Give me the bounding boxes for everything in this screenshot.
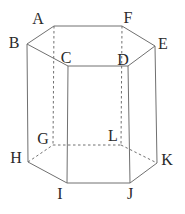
- vertex-label-D: D: [117, 51, 129, 68]
- edge-DJ: [128, 66, 130, 183]
- edge-FL-hidden: [121, 26, 122, 145]
- edge-JK: [130, 163, 157, 183]
- vertex-label-G: G: [37, 130, 49, 147]
- edge-ED: [128, 46, 155, 66]
- vertex-label-F: F: [124, 9, 133, 26]
- edge-FE: [122, 26, 155, 46]
- hexagonal-prism-diagram: ABCDEFGHIJKL: [0, 0, 185, 214]
- vertex-label-J: J: [127, 185, 133, 202]
- edge-EK: [155, 46, 157, 163]
- vertex-label-H: H: [10, 149, 22, 166]
- edge-HI: [28, 162, 67, 183]
- edge-LK-hidden: [121, 145, 157, 163]
- vertex-label-B: B: [9, 34, 20, 51]
- vertex-label-L: L: [108, 127, 118, 144]
- vertex-label-I: I: [57, 185, 62, 202]
- edge-HG-hidden: [28, 145, 53, 162]
- vertex-label-C: C: [61, 49, 72, 66]
- vertex-label-K: K: [161, 151, 173, 168]
- edge-BA: [27, 26, 54, 44]
- edge-CI: [67, 66, 68, 183]
- prism-wireframe-svg: ABCDEFGHIJKL: [0, 0, 185, 214]
- vertex-label-E: E: [158, 35, 168, 52]
- vertex-label-A: A: [32, 10, 44, 27]
- edge-BH: [27, 44, 28, 162]
- edge-AG-hidden: [53, 26, 54, 145]
